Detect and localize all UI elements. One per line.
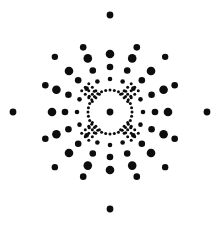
radial-dot-pattern-plot [0,0,222,239]
figure-container [0,0,222,239]
